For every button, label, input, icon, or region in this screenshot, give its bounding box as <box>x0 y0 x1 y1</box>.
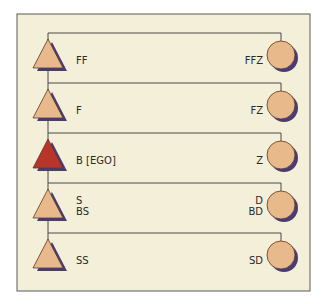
female-label: SD <box>249 255 263 266</box>
diagram-frame <box>17 14 310 291</box>
male-label: SS <box>76 255 89 266</box>
female-circle-icon <box>267 191 295 219</box>
male-label: F <box>76 105 82 116</box>
female-label: FZ <box>250 105 263 116</box>
female-label: BD <box>248 206 263 217</box>
female-label: D <box>255 195 263 206</box>
male-label: BS <box>76 206 89 217</box>
male-label: S <box>76 195 82 206</box>
female-circle-icon <box>267 141 295 169</box>
kinship-diagram: FFFFZFFZB [EGO]ZSBSDBDSSSD <box>0 0 323 304</box>
female-label: FFZ <box>245 55 264 66</box>
female-label: Z <box>256 155 263 166</box>
male-label: B [EGO] <box>76 155 116 166</box>
male-label: FF <box>76 55 88 66</box>
female-circle-icon <box>267 41 295 69</box>
female-circle-icon <box>267 91 295 119</box>
female-circle-icon <box>267 241 295 269</box>
